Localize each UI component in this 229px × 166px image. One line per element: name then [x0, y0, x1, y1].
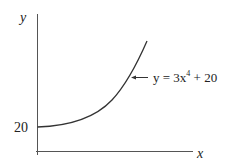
function-curve [38, 41, 148, 127]
y-intercept-label: 20 [14, 120, 28, 135]
y-axis-label: y [18, 10, 27, 25]
equation-suffix: + 20 [190, 70, 217, 85]
function-graph: y x 20 y = 3x4 + 20 [0, 0, 229, 166]
annotation-arrow-head-icon [131, 76, 136, 80]
x-axis-label: x [196, 146, 204, 161]
equation-prefix: y = 3x [153, 70, 187, 85]
equation-label: y = 3x4 + 20 [153, 69, 217, 85]
